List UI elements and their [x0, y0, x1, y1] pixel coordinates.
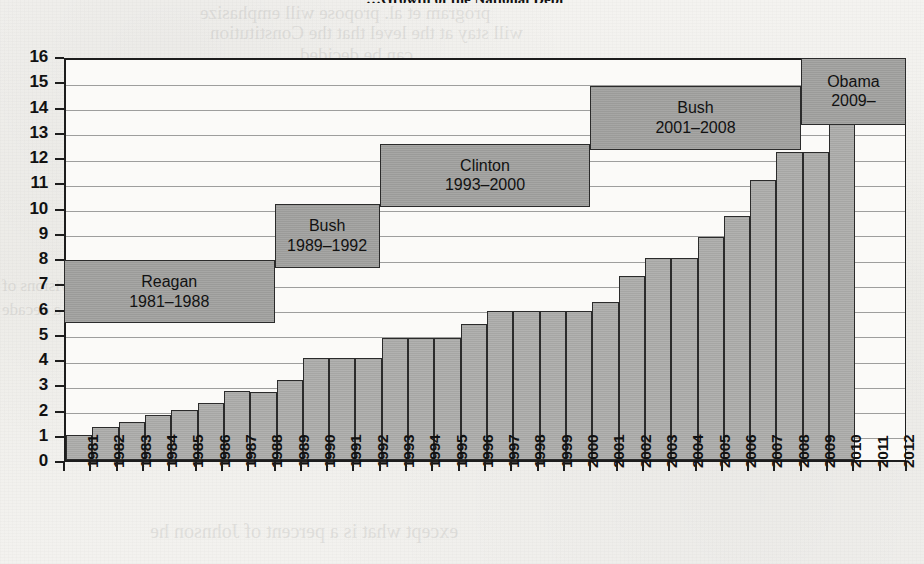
- x-axis-tick-mark: [221, 462, 223, 471]
- annotation-term-years: 1989–1992: [287, 236, 367, 256]
- x-axis-tick-mark: [721, 462, 723, 471]
- y-axis-tick-mark: [55, 411, 64, 413]
- x-axis-label-1996: 1996: [479, 435, 497, 468]
- x-axis-label-2011: 2011: [874, 436, 892, 468]
- x-axis-tick-mark: [274, 462, 276, 471]
- annotation-term-years: 1981–1988: [129, 292, 209, 312]
- x-axis-label-1985: 1985: [189, 435, 207, 468]
- annotation-term-years: 2001–2008: [655, 118, 735, 138]
- x-axis-label-2004: 2004: [689, 435, 707, 468]
- x-axis-label-1983: 1983: [137, 435, 155, 468]
- y-axis-label-16: 16: [14, 47, 48, 67]
- y-axis-tick-mark: [55, 310, 64, 312]
- chart-title: …Growth of the National Debt: [250, 0, 680, 3]
- x-axis-tick-mark: [116, 462, 118, 471]
- bar-2003: [645, 258, 671, 460]
- y-axis-label-8: 8: [14, 249, 48, 269]
- y-axis-label-10: 10: [14, 199, 48, 219]
- x-axis-label-2012: 2012: [900, 435, 918, 468]
- y-axis-label-4: 4: [14, 350, 48, 370]
- x-axis-label-1995: 1995: [453, 435, 471, 468]
- x-axis-label-1981: 1981: [84, 435, 102, 468]
- x-axis-label-1984: 1984: [163, 435, 181, 468]
- x-axis-label-1990: 1990: [321, 435, 339, 468]
- x-axis-tick-mark: [800, 462, 802, 471]
- bar-chart-figure: …Growth of the National Debt 01234567891…: [0, 0, 924, 564]
- x-axis-label-1991: 1991: [347, 435, 365, 468]
- x-axis-tick-mark: [379, 462, 381, 471]
- annotation-president-name: Clinton: [460, 156, 510, 176]
- bar-2002: [619, 276, 645, 460]
- y-axis-tick-mark: [55, 57, 64, 59]
- y-axis-label-12: 12: [14, 148, 48, 168]
- x-axis-tick-mark: [352, 462, 354, 471]
- x-axis-tick-mark: [537, 462, 539, 471]
- bar-2010: [829, 104, 855, 460]
- bar-2007: [750, 180, 776, 460]
- annotation-president-name: Bush: [309, 216, 345, 236]
- x-axis-label-1986: 1986: [216, 435, 234, 468]
- x-axis-label-1999: 1999: [558, 435, 576, 468]
- y-axis-tick-mark: [55, 158, 64, 160]
- x-axis-tick-mark: [89, 462, 91, 471]
- x-axis-tick-mark: [458, 462, 460, 471]
- annotation-term-years: 1993–2000: [445, 175, 525, 195]
- annotation-president-name: Bush: [677, 98, 713, 118]
- x-axis-label-1989: 1989: [295, 435, 313, 468]
- x-axis-tick-mark: [668, 462, 670, 471]
- y-axis-tick-mark: [55, 82, 64, 84]
- y-axis-tick-mark: [55, 259, 64, 261]
- x-axis-label-2007: 2007: [768, 435, 786, 468]
- x-axis-label-1992: 1992: [374, 435, 392, 468]
- bar-2006: [724, 216, 750, 460]
- x-axis-tick-mark: [826, 462, 828, 471]
- x-axis-label-2002: 2002: [637, 435, 655, 468]
- annotation-box-bush43: Bush2001–2008: [590, 86, 801, 150]
- x-axis-tick-mark: [247, 462, 249, 471]
- x-axis-label-1998: 1998: [531, 435, 549, 468]
- x-axis-label-2005: 2005: [716, 435, 734, 468]
- x-axis-tick-mark: [773, 462, 775, 471]
- x-axis-tick-mark: [642, 462, 644, 471]
- y-axis-label-15: 15: [14, 72, 48, 92]
- y-axis-label-13: 13: [14, 123, 48, 143]
- y-axis-label-2: 2: [14, 401, 48, 421]
- annotation-box-clinton: Clinton1993–2000: [380, 144, 591, 207]
- y-axis-tick-mark: [55, 209, 64, 211]
- x-axis-label-2009: 2009: [821, 435, 839, 468]
- x-axis-label-1994: 1994: [426, 435, 444, 468]
- x-axis-tick-mark: [168, 462, 170, 471]
- x-axis-tick-mark: [616, 462, 618, 471]
- y-axis-label-1: 1: [14, 426, 48, 446]
- x-axis-tick-mark: [484, 462, 486, 471]
- x-axis-label-2008: 2008: [795, 435, 813, 468]
- x-axis-label-2006: 2006: [742, 435, 760, 468]
- y-axis-label-9: 9: [14, 224, 48, 244]
- y-axis-tick-mark: [55, 133, 64, 135]
- x-axis-tick-mark: [510, 462, 512, 471]
- x-axis-tick-mark: [563, 462, 565, 471]
- x-axis-tick-mark: [300, 462, 302, 471]
- bar-2004: [671, 258, 697, 460]
- annotation-box-reagan: Reagan1981–1988: [64, 260, 275, 323]
- x-axis-tick-mark: [142, 462, 144, 471]
- y-axis-tick-mark: [55, 234, 64, 236]
- x-axis-label-1982: 1982: [110, 435, 128, 468]
- annotation-box-bush41: Bush1989–1992: [275, 204, 380, 267]
- x-axis-label-2003: 2003: [663, 435, 681, 468]
- y-axis-label-11: 11: [14, 173, 48, 193]
- bar-2005: [698, 237, 724, 460]
- x-axis-tick-mark: [905, 462, 907, 471]
- x-axis-label-1997: 1997: [505, 435, 523, 468]
- x-axis-label-1988: 1988: [268, 435, 286, 468]
- y-axis-tick-mark: [55, 335, 64, 337]
- y-axis-tick-mark: [55, 183, 64, 185]
- x-axis-tick-mark: [326, 462, 328, 471]
- x-axis-label-2001: 2001: [610, 435, 628, 468]
- y-axis-label-0: 0: [14, 451, 48, 471]
- y-axis-label-3: 3: [14, 375, 48, 395]
- annotation-president-name: Reagan: [141, 272, 197, 292]
- x-axis-label-2010: 2010: [847, 435, 865, 468]
- x-axis-tick-mark: [195, 462, 197, 471]
- x-axis-label-1993: 1993: [400, 435, 418, 468]
